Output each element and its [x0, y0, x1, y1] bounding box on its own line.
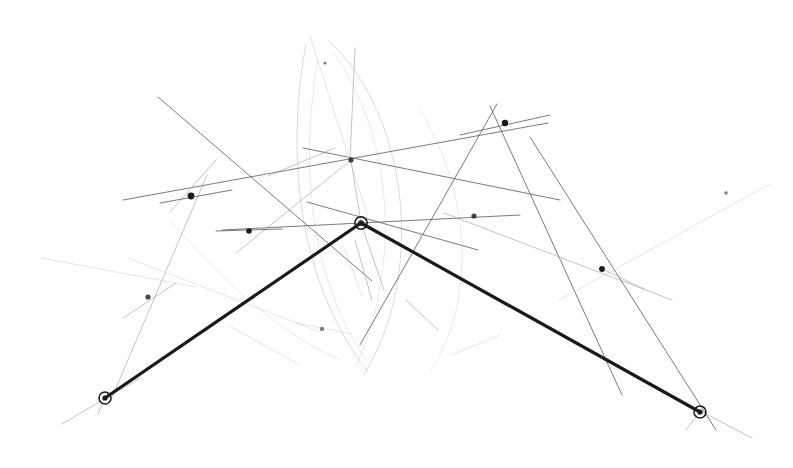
node-upper-right [502, 120, 508, 126]
node-far-upper-right [724, 191, 728, 195]
left-vertex-dot [102, 395, 107, 400]
right-vertex-dot [697, 409, 702, 414]
figure-canvas [0, 0, 793, 468]
node-mid-right [471, 213, 476, 218]
node-upper-left [188, 193, 195, 200]
node-lower-left [145, 294, 150, 299]
node-upper-center [348, 157, 353, 162]
apex-vertex-dot [358, 220, 364, 226]
node-mid-left [246, 228, 252, 234]
construction-diagram-svg [0, 0, 793, 468]
node-lower-center [320, 327, 324, 331]
node-right [599, 266, 605, 272]
node-top-left-faint [323, 61, 326, 64]
